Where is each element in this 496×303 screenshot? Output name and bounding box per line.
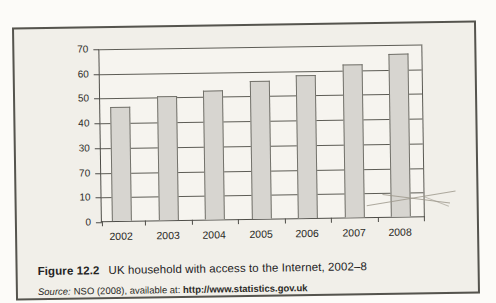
bar-chart [98, 44, 425, 222]
bar-2003 [157, 96, 179, 220]
x-axis-tick [102, 221, 103, 226]
y-axis-label: 0 [65, 216, 91, 228]
bar-2002 [110, 107, 132, 221]
x-axis-label: 2006 [285, 227, 329, 240]
bar-2005 [250, 81, 272, 219]
figure-box: 706050403070100 200220032004200520062007… [12, 21, 480, 301]
y-axis-label: 30 [64, 142, 90, 154]
y-axis-label: 50 [63, 92, 89, 104]
y-axis-tick [94, 74, 100, 75]
source-text: NSO (2008), available at: [74, 284, 183, 297]
x-axis-tick [331, 218, 332, 223]
gridline [100, 69, 422, 75]
y-axis-label: 70 [62, 43, 88, 55]
bar-2007 [343, 64, 365, 217]
x-axis-tick [145, 220, 146, 225]
y-axis-tick [95, 148, 101, 149]
y-axis-tick [94, 98, 100, 99]
gridline [99, 44, 421, 50]
x-axis-tick [192, 220, 193, 225]
x-axis-label: 2008 [378, 225, 422, 238]
x-axis-tick [238, 219, 239, 224]
x-axis-tick [285, 218, 286, 223]
y-axis-label: 10 [64, 191, 90, 203]
y-axis-tick [94, 123, 100, 124]
x-axis-tick [424, 216, 425, 221]
figure-number: Figure 12.2 [38, 264, 100, 277]
x-axis-tick [378, 217, 379, 222]
x-axis-label: 2007 [332, 226, 376, 239]
y-axis-labels: 706050403070100 [14, 23, 474, 30]
source-url: http://www.statistics.gov.uk [183, 282, 308, 295]
bar-2004 [203, 90, 225, 219]
source-line: Source:NSO (2008), available at: http://… [38, 280, 466, 297]
x-axis-label: 2005 [239, 227, 283, 240]
y-axis-tick [95, 173, 101, 174]
figure-caption: Figure 12.2UK household with access to t… [38, 259, 466, 277]
x-axis-labels: 2002200320042005200620072008 [14, 23, 474, 30]
source-prefix: Source: [38, 286, 71, 297]
y-axis-label: 60 [63, 68, 89, 80]
x-axis-label: 2002 [99, 230, 143, 243]
y-axis-label: 70 [64, 167, 90, 179]
bar-2006 [296, 75, 318, 218]
y-axis-label: 40 [63, 117, 89, 129]
bar-2008 [388, 54, 410, 217]
figure-title: UK household with access to the Internet… [108, 260, 367, 276]
x-axis-label: 2003 [146, 229, 190, 242]
y-axis-tick [96, 197, 102, 198]
x-axis-label: 2004 [192, 228, 236, 241]
y-axis-tick [93, 49, 99, 50]
